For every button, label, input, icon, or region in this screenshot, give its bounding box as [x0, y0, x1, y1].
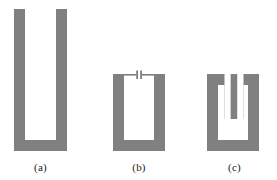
slit-gap-right	[237, 74, 243, 119]
panel-b-caption: (b)	[98, 161, 180, 174]
panel-c: (c)	[192, 0, 277, 180]
shape-open-u-resonator-tall	[0, 0, 81, 158]
panel-c-caption: (c)	[192, 161, 277, 174]
right-arm	[56, 9, 67, 151]
slit-gap-left	[225, 74, 231, 119]
gap-plate-right	[140, 71, 142, 80]
shape-u-resonator-with-inner-tongue	[192, 0, 277, 158]
left-arm	[14, 9, 25, 151]
bottom-base	[14, 140, 67, 151]
panel-b: (b)	[98, 0, 180, 180]
figure-root: (a) (b)	[0, 0, 277, 180]
right-wall	[154, 74, 165, 151]
top-bar-right-segment	[142, 74, 154, 76]
top-bar-left-segment	[124, 74, 136, 76]
panel-a-caption: (a)	[0, 161, 81, 174]
panel-a: (a)	[0, 0, 81, 180]
inner-tongue	[231, 74, 238, 119]
left-wall	[113, 74, 124, 151]
shape-u-resonator-with-capacitive-gap	[98, 0, 180, 158]
gap-plate-left	[136, 71, 138, 80]
bottom-base	[113, 140, 165, 151]
